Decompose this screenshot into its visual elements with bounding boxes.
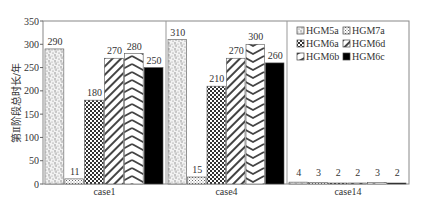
y-tick-label: 350 <box>24 16 39 27</box>
bar-chart: 050100150200250300350case1case4case14 29… <box>0 0 422 204</box>
data-label: 310 <box>170 27 185 38</box>
bar-hgm6d-case4 <box>227 58 246 184</box>
bar-hgm6d-case1 <box>105 58 124 184</box>
bar-hgm6a-case1 <box>85 100 104 184</box>
bar-hgm6b-case4 <box>246 44 265 184</box>
legend-swatch-hgm6a <box>297 40 304 47</box>
data-label: 270 <box>229 45 244 56</box>
legend: HGM5aHGM7aHGM6aHGM6dHGM6bHGM6c <box>297 25 385 62</box>
legend-label-hgm6d: HGM6d <box>352 38 385 49</box>
bar-hgm6c-case4 <box>266 63 285 184</box>
bar-hgm6c-case1 <box>144 68 163 184</box>
data-label: 11 <box>70 166 80 177</box>
y-tick-label: 100 <box>24 132 39 143</box>
data-label: 3 <box>316 167 321 178</box>
data-label: 290 <box>47 36 62 47</box>
data-label: 2 <box>395 167 400 178</box>
legend-swatch-hgm6c <box>343 53 350 60</box>
data-label: 280 <box>127 41 142 52</box>
bar-hgm7a-case4 <box>188 177 207 184</box>
y-tick-label: 250 <box>24 62 39 73</box>
data-label: 260 <box>268 50 283 61</box>
bar-hgm5a-case14 <box>289 182 308 184</box>
legend-label-hgm7a: HGM7a <box>352 25 385 36</box>
x-tick-label: case14 <box>334 186 361 197</box>
data-label: 250 <box>147 55 162 66</box>
data-label: 15 <box>192 164 202 175</box>
data-label: 180 <box>87 87 102 98</box>
data-label: 2 <box>355 167 360 178</box>
x-tick-label: case1 <box>93 186 115 197</box>
bar-hgm6c-case14 <box>387 183 406 184</box>
data-label: 4 <box>296 167 301 178</box>
legend-swatch-hgm7a <box>343 27 350 34</box>
data-label: 2 <box>336 167 341 178</box>
bar-hgm6b-case1 <box>124 54 143 184</box>
y-tick-label: 50 <box>29 155 39 166</box>
data-label: 210 <box>209 73 224 84</box>
legend-label-hgm6c: HGM6c <box>352 51 385 62</box>
y-tick-label: 150 <box>24 109 39 120</box>
data-label: 300 <box>248 31 263 42</box>
bar-hgm6a-case14 <box>328 183 347 184</box>
data-label: 270 <box>107 45 122 56</box>
bar-hgm6a-case4 <box>207 86 226 184</box>
legend-swatch-hgm6d <box>343 40 350 47</box>
x-tick-label: case4 <box>215 186 237 197</box>
bar-hgm6b-case14 <box>368 183 387 184</box>
bar-hgm7a-case14 <box>309 183 328 184</box>
data-label: 3 <box>375 167 380 178</box>
bar-hgm6d-case14 <box>348 183 367 184</box>
y-tick-label: 300 <box>24 39 39 50</box>
y-tick-label: 0 <box>34 179 39 190</box>
legend-swatch-hgm6b <box>297 53 304 60</box>
legend-label-hgm6b: HGM6b <box>306 51 339 62</box>
y-tick-label: 200 <box>24 85 39 96</box>
legend-swatch-hgm5a <box>297 27 304 34</box>
bar-hgm5a-case4 <box>168 40 187 184</box>
legend-label-hgm6a: HGM6a <box>306 38 339 49</box>
y-axis-label: 第Ⅱ阶段总时长/年 <box>10 63 22 143</box>
bar-hgm5a-case1 <box>45 49 64 184</box>
legend-label-hgm5a: HGM5a <box>306 25 339 36</box>
bar-hgm7a-case1 <box>65 179 84 184</box>
